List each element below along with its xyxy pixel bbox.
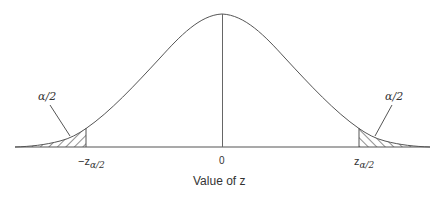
left-tail-region <box>15 129 86 148</box>
center-zero-label: 0 <box>219 156 225 166</box>
x-axis-label: Value of z <box>193 175 245 187</box>
normal-curve-figure <box>0 0 444 197</box>
left-tail-area-label: α/2 <box>38 91 56 102</box>
left-area-leader-line <box>50 105 70 136</box>
right-tail-region <box>359 129 430 148</box>
left-cutoff-subscript: α/2 <box>90 160 105 170</box>
left-cutoff-prefix: −z <box>78 155 90 167</box>
right-cutoff-subscript: α/2 <box>360 160 375 170</box>
right-area-leader-line <box>375 105 392 136</box>
right-cutoff-label: zα/2 <box>354 156 374 170</box>
left-cutoff-label: −zα/2 <box>78 156 105 170</box>
right-tail-area-label: α/2 <box>385 91 403 102</box>
